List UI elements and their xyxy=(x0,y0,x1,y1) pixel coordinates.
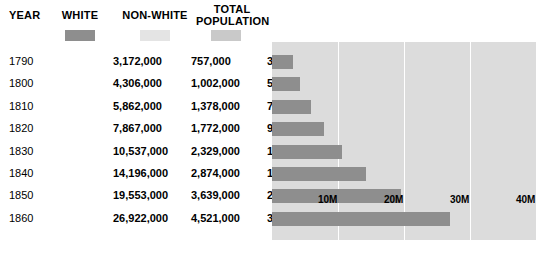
cell-year: 1830 xyxy=(9,145,33,157)
table-row: 185019,553,0003,639,00023,192,000 xyxy=(0,189,272,211)
gridline xyxy=(404,42,405,240)
cell-year: 1850 xyxy=(9,189,33,201)
legend-swatch-nonwhite xyxy=(140,30,170,41)
gridline xyxy=(338,42,339,240)
cell-year: 1820 xyxy=(9,122,33,134)
bar xyxy=(272,55,293,69)
x-tick-label: 30M xyxy=(450,194,469,205)
bar xyxy=(272,122,324,136)
x-tick-label: 40M xyxy=(516,194,535,205)
x-tick-label: 20M xyxy=(384,194,403,205)
cell-year: 1800 xyxy=(9,77,33,89)
bar xyxy=(272,167,366,181)
cell-year: 1790 xyxy=(9,55,33,67)
legend-swatch-total xyxy=(211,30,241,41)
bar xyxy=(272,100,311,114)
cell-year: 1810 xyxy=(9,100,33,112)
table-row: 183010,537,0002,329,00012,866,000 xyxy=(0,145,272,167)
table-row: 186026,922,0004,521,00031,443,000 xyxy=(0,212,272,234)
data-table: YEAR WHITE NON-WHITE TOTAL POPULATION 17… xyxy=(0,0,272,262)
column-header-year: YEAR xyxy=(9,9,40,21)
bar xyxy=(272,145,342,159)
bar xyxy=(272,77,300,91)
column-header-total-population: TOTAL POPULATION xyxy=(196,3,268,27)
cell-year: 1860 xyxy=(9,212,33,224)
bar-chart-plot: 10M20M30M40M xyxy=(272,42,536,240)
x-tick-label: 10M xyxy=(318,194,337,205)
table-row: 17903,172,000757,0003,929,000 xyxy=(0,55,272,77)
bar xyxy=(272,212,450,226)
table-row: 18004,306,0001,002,0005,308,000 xyxy=(0,77,272,99)
column-header-white: WHITE xyxy=(47,9,113,21)
column-header-nonwhite: NON-WHITE xyxy=(118,9,192,21)
table-row: 184014,196,0002,874,00017,070,000 xyxy=(0,167,272,189)
cell-year: 1840 xyxy=(9,167,33,179)
gridline xyxy=(470,42,471,240)
table-row: 18105,862,0001,378,0007,240,000 xyxy=(0,100,272,122)
infographic-root: YEAR WHITE NON-WHITE TOTAL POPULATION 17… xyxy=(0,0,536,262)
table-row: 18207,867,0001,772,0009,639,000 xyxy=(0,122,272,144)
legend-swatch-white xyxy=(65,30,95,41)
